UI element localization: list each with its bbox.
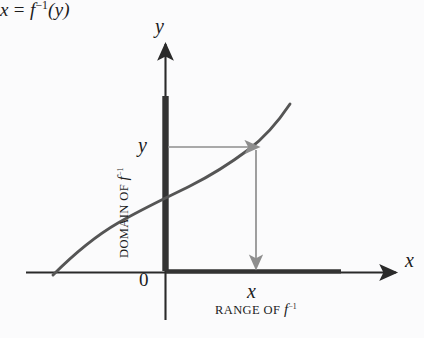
- inverse-function-diagram: y x 0 y x x = f−1(y) DOMAIN OF f−1 RANGE…: [0, 0, 424, 338]
- domain-label-inverse-exponent: −1: [116, 168, 125, 176]
- equation-argument-y: (y): [48, 0, 70, 20]
- y-axis-label: y: [155, 16, 164, 36]
- equation-inverse-exponent: −1: [35, 0, 48, 12]
- equation-equals-sign: =: [14, 0, 25, 20]
- x-value-label: x: [247, 281, 256, 301]
- range-of-inverse-label: RANGE OF f−1: [215, 302, 297, 317]
- origin-label: 0: [139, 270, 149, 289]
- domain-of-inverse-label: DOMAIN OF f−1: [116, 168, 131, 258]
- range-label-inverse-exponent: −1: [288, 302, 296, 311]
- curve-equation-label: x = f−1(y): [0, 0, 70, 19]
- equation-variable-x: x: [0, 0, 9, 20]
- x-axis-label: x: [405, 250, 414, 270]
- range-label-prefix: RANGE OF: [215, 303, 284, 317]
- inverse-function-curve: [53, 104, 290, 275]
- domain-label-prefix: DOMAIN OF: [117, 180, 131, 258]
- domain-label-function-f: f: [115, 176, 131, 181]
- y-value-label: y: [138, 135, 147, 155]
- diagram-canvas: [0, 0, 424, 338]
